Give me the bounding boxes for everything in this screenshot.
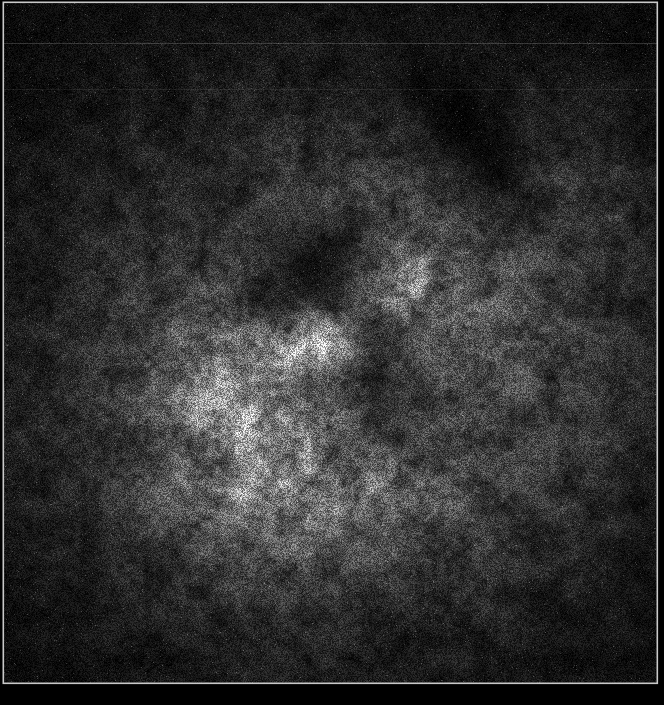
grayscale-astronomy-image (0, 0, 664, 705)
screenshot-root (0, 0, 664, 705)
